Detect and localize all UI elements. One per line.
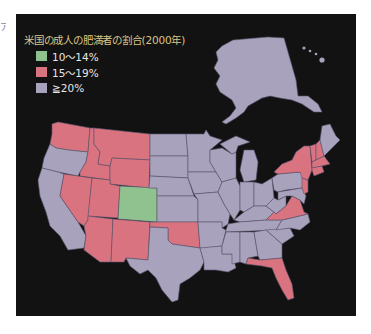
state-maine — [320, 124, 340, 156]
state-kansas — [157, 196, 198, 222]
legend-item-low: 10〜14% — [36, 48, 99, 64]
state-north-dakota — [150, 134, 188, 156]
legend-label: 15〜19% — [52, 65, 99, 80]
state-colorado — [118, 186, 157, 222]
state-washington — [50, 122, 90, 152]
legend-swatch-purple — [36, 83, 47, 93]
state-florida — [246, 258, 294, 300]
state-alaska — [214, 37, 322, 124]
state-arkansas — [198, 222, 226, 248]
state-connecticut — [312, 166, 324, 176]
state-iowa — [188, 172, 222, 194]
state-wyoming — [110, 158, 150, 188]
legend-item-high: ≧20% — [36, 80, 99, 96]
map-title: 米国の成人の肥満者の割合(2000年) — [24, 32, 185, 47]
state-new-mexico — [111, 219, 150, 262]
legend-swatch-green — [36, 51, 47, 61]
state-arizona — [84, 216, 113, 262]
cropped-side-text: ア — [0, 22, 6, 44]
legend-swatch-pink — [36, 67, 47, 77]
legend-item-mid: 15〜19% — [36, 64, 99, 80]
state-hawaii — [302, 46, 305, 49]
map-legend: 10〜14% 15〜19% ≧20% — [36, 48, 99, 96]
state-south-dakota — [150, 156, 188, 178]
state-new-jersey — [302, 178, 308, 194]
obesity-map-panel: 米国の成人の肥満者の割合(2000年) 10〜14% 15〜19% ≧20% — [16, 14, 356, 316]
legend-label: 10〜14% — [52, 49, 99, 64]
legend-label: ≧20% — [52, 82, 84, 94]
